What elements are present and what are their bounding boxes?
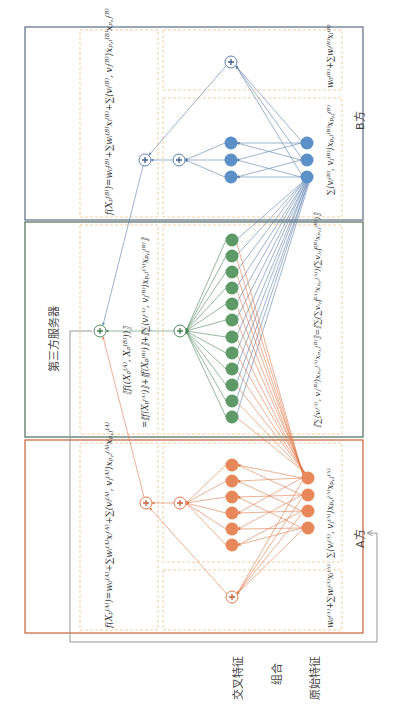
- server-cross-node: [226, 314, 239, 327]
- party-a-cross-node: [226, 475, 239, 488]
- party-b-total-plus-node: [139, 154, 151, 166]
- party-a-cross-formula: ∑⟨vᵢ⁽ᴬ⁾, vⱼ⁽ᴬ⁾⟩xₚ,ᵢ⁽ᴬ⁾xₚ,ⱼ⁽ᴬ⁾: [325, 468, 335, 558]
- server-total-plus-node: [94, 325, 106, 337]
- party-a-raw-node: [302, 489, 315, 502]
- party-a-raw-node: [302, 505, 315, 518]
- party-b-cross-node: [225, 154, 238, 167]
- party-b-panel: [25, 27, 363, 220]
- server-cross-node: [226, 250, 239, 263]
- party-a-cross-node: [226, 523, 239, 536]
- server-cross-plus-node: [174, 325, 186, 337]
- party-b-cross-plus-node: [173, 154, 185, 166]
- party-a-cross-node: [226, 459, 239, 472]
- server-total-formula-line1: ⟦f((Xₚ⁽ᴬ⁾, Xₚ⁽ᴮ⁾))⟧: [122, 327, 132, 395]
- party-a-raw-node: [302, 522, 315, 535]
- server-cross-node: [226, 379, 239, 392]
- party-a-panel: [25, 440, 363, 633]
- server-nodes: [94, 234, 239, 424]
- server-cross-node: [226, 331, 239, 344]
- server-cross-node: [226, 395, 239, 408]
- party-b-nodes: [139, 56, 314, 184]
- party-b-cross-node: [225, 137, 238, 150]
- server-cross-node: [226, 234, 239, 247]
- server-cross-node: [226, 298, 239, 311]
- party-b-label: B方: [351, 111, 367, 130]
- party-a-cross-node: [226, 539, 239, 552]
- party-a-cross-node: [226, 507, 239, 520]
- party-b-cross-formula: ∑⟨vᵢ⁽ᴮ⁾, vⱼ⁽ᴮ⁾⟩xₚ,ᵢ⁽ᴮ⁾xₚ,ⱼ⁽ᴮ⁾: [325, 105, 335, 195]
- server-cross-node: [226, 347, 239, 360]
- party-b-linear-formula: w₀⁽ᴮ⁾+∑wᵢ⁽ᴮ⁾xᵢ⁽ᴮ⁾: [325, 24, 335, 88]
- row-label-cross-features: 交叉特征: [229, 656, 245, 700]
- party-a-cross-node: [226, 491, 239, 504]
- server-cross-formula: ⟦∑⟨vᵢ⁽ᴬ⁾, vⱼ⁽ᴮ⁾⟩xₚ,ᵢ⁽ᴬ⁾xₚ,ⱼ⁽ᴮ⁾⟧=⟦∑(∑vᵢ,f…: [313, 213, 322, 428]
- row-label-raw-features: 原始特征: [306, 656, 322, 700]
- party-b-linear-plus-node: [225, 56, 237, 68]
- party-b-cross-node: [225, 171, 238, 184]
- party-b-cross-box: [163, 98, 342, 217]
- row-label-combination: 组合: [268, 663, 284, 685]
- party-a-label: A方: [351, 529, 367, 548]
- server-cross-node: [226, 363, 239, 376]
- party-b-edges: [103, 66, 310, 417]
- party-a-total-formula: f(Xₚ⁽ᴬ⁾)=w₀⁽ᴬ⁾+∑wᵢ⁽ᴬ⁾xᵢ⁽ᴬ⁾+∑⟨vᵢ⁽ᴬ⁾, vⱼ⁽ᴬ…: [104, 422, 114, 628]
- server-total-formula-line2: =⟦f(Xₚ⁽ᴬ⁾)⟧+⟦f(Xₚ⁽ᴮ⁾)⟧+⟦∑⟨vᵢ⁽ᴬ⁾, vⱼ⁽ᴮ⁾⟩x…: [140, 238, 150, 428]
- party-b-linear-box: [163, 30, 342, 90]
- party-b-raw-node: [301, 154, 314, 167]
- party-a-linear-formula: w₀⁽ᴬ⁾+∑wᵢ⁽ᴬ⁾xᵢ⁽ᴬ⁾: [325, 565, 335, 628]
- party-a-raw-node: [302, 472, 315, 485]
- party-a-cross-plus-node: [174, 497, 186, 509]
- server-cross-node: [226, 411, 239, 424]
- server-label: 第三方服务器: [45, 306, 61, 372]
- party-a-total-plus-node: [140, 497, 152, 509]
- server-cross-node: [226, 282, 239, 295]
- party-b-raw-node: [301, 137, 314, 150]
- party-a-edges: [103, 240, 308, 594]
- server-cross-node: [226, 266, 239, 279]
- party-b-raw-node: [301, 171, 314, 184]
- party-b-total-formula: f(Xₚ⁽ᴮ⁾)=w₀⁽ᴮ⁾+∑wᵢ⁽ᴮ⁾xᵢ⁽ᴮ⁾+∑⟨vᵢ⁽ᴮ⁾, vⱼ⁽ᴮ…: [104, 8, 114, 215]
- party-a-linear-plus-node: [226, 591, 238, 603]
- party-b-total-formula-box: [80, 30, 158, 217]
- party-a-total-formula-box: [80, 443, 158, 630]
